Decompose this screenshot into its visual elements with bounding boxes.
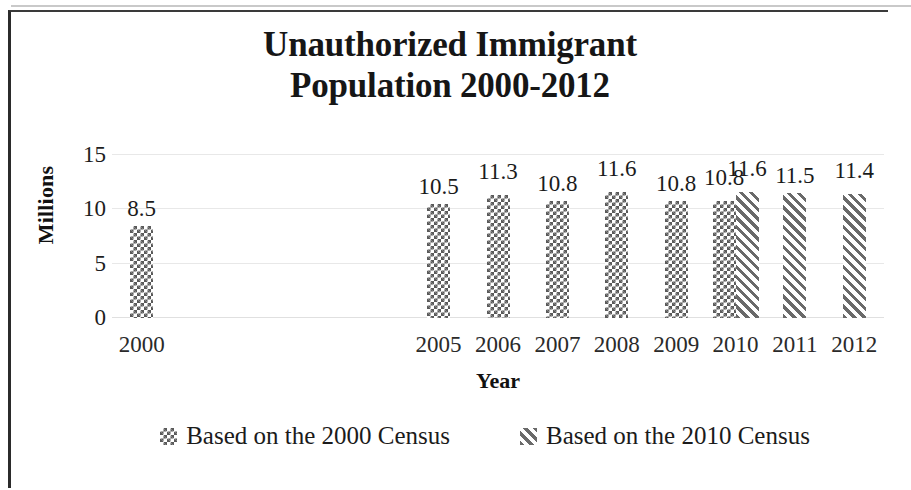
chart-legend: Based on the 2000 CensusBased on the 201… [90, 416, 880, 456]
x-tick-label-2005: 2005 [411, 332, 467, 358]
bar-2012-2[interactable] [843, 194, 866, 318]
x-tick-label-2009: 2009 [648, 332, 704, 358]
x-axis-ticks: 200020052006200720082009201020112012 [112, 332, 884, 362]
x-axis-title: Year [112, 368, 884, 394]
x-tick-label-2012: 2012 [826, 332, 882, 358]
gridline-15 [112, 154, 884, 155]
bar-label-2011-2: 11.5 [767, 163, 823, 189]
bar-2007-1[interactable] [546, 201, 569, 318]
bar-2010-1[interactable] [713, 201, 736, 318]
chart-title-line-2: Population 2000-2012 [120, 65, 780, 106]
bar-2005-1[interactable] [427, 204, 450, 318]
x-tick-label-2007: 2007 [529, 332, 585, 358]
bar-label-2006-1: 11.3 [470, 159, 526, 185]
bar-2010-2[interactable] [736, 192, 759, 318]
y-axis-title: Millions [33, 145, 59, 265]
legend-label-2: Based on the 2010 Census [546, 422, 810, 450]
legend-label-1: Based on the 2000 Census [186, 422, 450, 450]
x-tick-label-2008: 2008 [589, 332, 645, 358]
y-tick-label-0: 0 [66, 305, 106, 331]
bar-label-2012-2: 11.4 [826, 158, 882, 184]
x-tick-label-2011: 2011 [767, 332, 823, 358]
bar-label-2000-1: 8.5 [114, 196, 170, 222]
bar-2009-1[interactable] [665, 201, 688, 318]
legend-item-2[interactable]: Based on the 2010 Census [520, 422, 810, 450]
legend-item-1[interactable]: Based on the 2000 Census [160, 422, 450, 450]
bar-2011-2[interactable] [783, 193, 806, 318]
legend-swatch-diagonal-hatch-icon [520, 428, 537, 445]
bar-label-2008-1: 11.6 [589, 156, 645, 182]
chart-title-line-1: Unauthorized Immigrant [120, 24, 780, 65]
y-tick-label-15: 15 [66, 142, 106, 168]
plot-area: 8.510.511.310.811.610.810.811.611.511.4 [112, 155, 884, 318]
legend-swatch-checkered-icon [160, 428, 177, 445]
y-tick-label-5: 5 [66, 251, 106, 277]
bar-2006-1[interactable] [487, 195, 510, 318]
chart-title: Unauthorized Immigrant Population 2000-2… [120, 24, 780, 107]
bar-label-2007-1: 10.8 [529, 171, 585, 197]
y-axis-ticks: 051015 [62, 155, 106, 318]
bar-label-2005-1: 10.5 [411, 174, 467, 200]
x-tick-label-2000: 2000 [114, 332, 170, 358]
x-tick-label-2010: 2010 [708, 332, 764, 358]
bar-2008-1[interactable] [605, 192, 628, 318]
bar-2000-1[interactable] [130, 226, 153, 318]
x-tick-label-2006: 2006 [470, 332, 526, 358]
y-tick-label-10: 10 [66, 196, 106, 222]
